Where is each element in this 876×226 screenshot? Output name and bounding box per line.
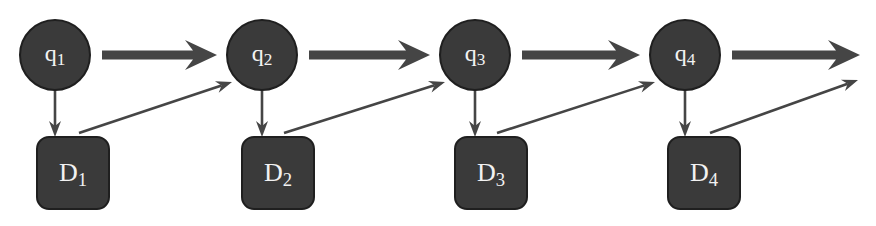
edge-q4-next [732,40,860,70]
edge-d4-next [710,80,858,133]
edge-q1-d1 [49,90,61,137]
edge-q4-d4 [679,90,691,137]
thin-arrow-line [710,84,848,133]
edge-q2-q3 [309,40,430,70]
document-node-d1: D1 [37,137,109,209]
edge-d3-q4 [497,81,655,133]
document-node-d3: D3 [455,137,527,209]
edge-q1-q2 [102,40,217,70]
edge-d2-q3 [284,81,445,133]
edge-q3-d3 [469,90,481,137]
state-node-q1: q1 [20,20,90,90]
state-node-q4: q4 [650,20,720,90]
thin-arrow-line [79,85,222,133]
edge-q2-d2 [256,90,268,137]
thick-arrow-shape [309,40,430,70]
thick-arrow-shape [102,40,217,70]
edge-d1-q2 [79,81,232,133]
state-node-q2: q2 [227,20,297,90]
nodes-layer: q1q2q3q4D1D2D3D4 [20,20,740,209]
diagram: q1q2q3q4D1D2D3D4 [0,0,876,226]
thin-arrow-line [284,85,435,133]
thick-arrow-shape [732,40,860,70]
document-node-d2: D2 [242,137,314,209]
document-node-d4: D4 [668,137,740,209]
thick-arrow-shape [522,40,640,70]
edge-q3-q4 [522,40,640,70]
thin-arrow-line [497,85,645,133]
state-node-q3: q3 [440,20,510,90]
